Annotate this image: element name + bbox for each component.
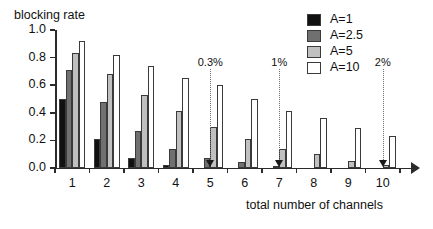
x-tick-mark — [330, 168, 332, 173]
x-tick-mark — [399, 168, 401, 173]
bar — [182, 78, 189, 168]
annotation-dotted-line — [383, 69, 384, 162]
x-axis-arrow-icon — [411, 162, 420, 174]
x-tick-mark — [296, 168, 298, 173]
y-axis-title: blocking rate — [14, 8, 85, 22]
bar — [79, 41, 86, 168]
bar — [100, 102, 107, 168]
bar — [217, 85, 224, 168]
bar — [128, 158, 135, 168]
x-tick-label: 10 — [366, 176, 400, 190]
legend-label: A=2.5 — [330, 29, 363, 42]
x-tick-mark — [158, 168, 160, 173]
bar — [148, 66, 155, 168]
y-tick-label: 1.0 — [4, 22, 46, 36]
bar — [245, 139, 252, 168]
annotation-arrow-icon — [379, 160, 387, 167]
x-tick-label: 7 — [262, 176, 296, 190]
bar — [169, 149, 176, 168]
bar — [176, 111, 183, 168]
x-tick-label: 5 — [193, 176, 227, 190]
chart-legend: A=1A=2.5A=5A=10 — [307, 12, 363, 76]
y-tick-label: 0.4 — [4, 105, 46, 119]
bar — [286, 111, 293, 168]
bar — [389, 136, 396, 168]
bar — [320, 118, 327, 168]
legend-swatch — [307, 46, 321, 58]
x-axis-title: total number of channels — [246, 198, 383, 212]
x-tick-mark — [89, 168, 91, 173]
bar — [163, 165, 170, 168]
y-tick-label: 0.8 — [4, 50, 46, 64]
x-tick-label: 2 — [90, 176, 124, 190]
x-tick-mark — [192, 168, 194, 173]
legend-label: A=5 — [330, 45, 353, 58]
bar — [113, 55, 120, 168]
annotation-label: 2% — [375, 56, 391, 68]
x-tick-mark — [227, 168, 229, 173]
x-tick-mark — [54, 168, 56, 173]
bar — [94, 139, 101, 168]
annotation-arrow-icon — [206, 160, 214, 167]
annotation-dotted-line — [210, 69, 211, 162]
annotation-arrow-icon — [275, 160, 283, 167]
annotation-label: 0.3% — [198, 56, 223, 68]
bar — [314, 154, 321, 168]
x-tick-label: 9 — [331, 176, 365, 190]
x-tick-mark — [365, 168, 367, 173]
legend-swatch — [307, 62, 321, 74]
annotation-dotted-line — [279, 69, 280, 162]
bar — [135, 131, 142, 168]
bar — [72, 53, 79, 168]
y-tick-label: 0.2 — [4, 132, 46, 146]
x-tick-label: 6 — [228, 176, 262, 190]
bar — [141, 95, 148, 168]
x-tick-mark — [261, 168, 263, 173]
legend-item: A=10 — [307, 60, 363, 75]
legend-swatch — [307, 14, 321, 26]
legend-swatch — [307, 30, 321, 42]
bar — [348, 161, 355, 168]
bar — [355, 128, 362, 168]
x-tick-label: 3 — [124, 176, 158, 190]
y-tick-label: 0.6 — [4, 77, 46, 91]
bar — [238, 162, 245, 168]
bar — [66, 70, 73, 168]
chart-figure: blocking rate total number of channels 0… — [0, 0, 433, 229]
y-tick-label: 0.0 — [4, 160, 46, 174]
legend-item: A=5 — [307, 44, 363, 59]
legend-item: A=2.5 — [307, 28, 363, 43]
x-tick-mark — [123, 168, 125, 173]
annotation-label: 1% — [271, 56, 287, 68]
x-tick-label: 8 — [297, 176, 331, 190]
legend-item: A=1 — [307, 12, 363, 27]
bar — [59, 99, 66, 168]
legend-label: A=1 — [330, 13, 353, 26]
bar — [251, 99, 258, 168]
x-tick-label: 4 — [159, 176, 193, 190]
legend-label: A=10 — [330, 61, 360, 74]
x-tick-label: 1 — [55, 176, 89, 190]
bar — [107, 74, 114, 168]
